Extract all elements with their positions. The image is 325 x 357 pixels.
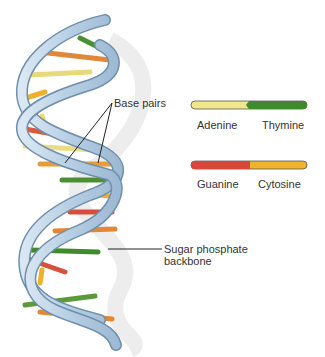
legend-thymine: Thymine	[262, 119, 304, 131]
backbone-label-line2: backbone	[164, 255, 212, 267]
legend-gc-bar	[191, 161, 307, 169]
legend-adenine: Adenine	[197, 119, 237, 131]
legend-at-bar	[191, 101, 307, 109]
backbone-label-line1: Sugar phosphate	[164, 243, 248, 255]
legend-guanine: Guanine	[197, 178, 239, 190]
base-pairs-label: Base pairs	[114, 97, 166, 109]
legend-cytosine: Cytosine	[258, 178, 301, 190]
